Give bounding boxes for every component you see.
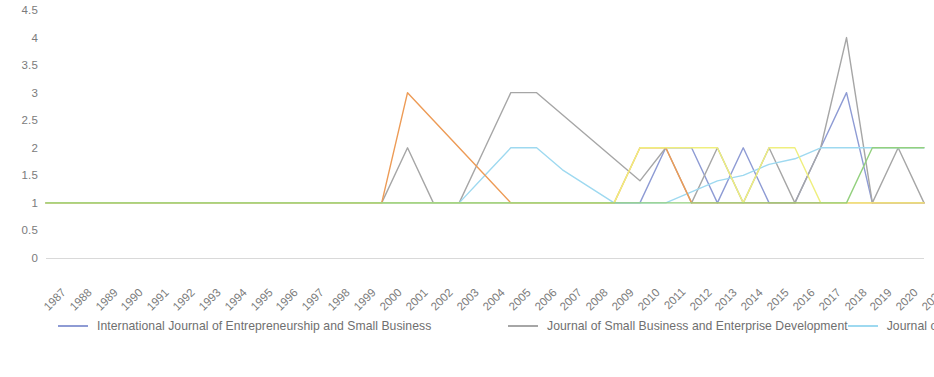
x-axis-tick-label: 1987 bbox=[41, 286, 68, 313]
y-axis-tick: 0.5 bbox=[21, 224, 38, 236]
y-axis-tick: 2.5 bbox=[21, 114, 38, 126]
y-axis-tick: 4 bbox=[31, 32, 38, 44]
x-axis: 1987198819891990199119921993199419951996… bbox=[46, 258, 924, 318]
legend-item[interactable]: International Journal of Entrepreneurshi… bbox=[58, 316, 508, 336]
series-line bbox=[46, 38, 924, 203]
y-axis-tick: 1.5 bbox=[21, 169, 38, 181]
chart-legend: International Journal of Entrepreneurshi… bbox=[58, 316, 934, 376]
legend-item[interactable]: Journal of Small Business Management bbox=[848, 316, 934, 336]
legend-item-label: International Journal of Entrepreneurshi… bbox=[97, 319, 431, 333]
y-axis-tick: 3 bbox=[31, 87, 38, 99]
legend-color-swatch bbox=[848, 325, 878, 327]
legend-item[interactable]: Journal of Small Business and Enterprise… bbox=[508, 316, 848, 336]
plot-area bbox=[46, 10, 924, 258]
y-axis: 00.511.522.533.544.5 bbox=[0, 0, 46, 270]
legend-item-label: Journal of Small Business and Enterprise… bbox=[547, 319, 848, 333]
y-axis-tick: 2 bbox=[31, 142, 38, 154]
y-axis-tick: 3.5 bbox=[21, 59, 38, 71]
legend-item-label: Journal of Small Business Management bbox=[887, 319, 934, 333]
y-axis-tick: 1 bbox=[31, 197, 38, 209]
plot-svg bbox=[46, 10, 924, 258]
x-axis-tick: 2020 bbox=[912, 268, 934, 295]
y-axis-tick: 4.5 bbox=[21, 4, 38, 16]
line-chart: 00.511.522.533.544.5 1987198819891990199… bbox=[0, 0, 934, 377]
y-axis-tick: 0 bbox=[31, 252, 38, 264]
legend-color-swatch bbox=[58, 325, 88, 327]
legend-color-swatch bbox=[508, 325, 538, 327]
